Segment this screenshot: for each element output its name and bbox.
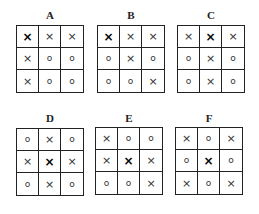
panel-label: C (177, 10, 245, 21)
x-mark-icon: × (220, 128, 242, 150)
x-mark-icon: × (222, 26, 244, 48)
x-mark-icon: × (17, 48, 39, 70)
x-mark-icon: × (200, 70, 222, 92)
panel-label: E (95, 113, 163, 124)
x-mark-icon: × (140, 172, 162, 194)
tic-tac-toe-grid: ×××o×ooo× (97, 25, 165, 93)
tic-tac-toe-grid: ×××o×oo×o (177, 25, 245, 93)
x-mark-icon: × (142, 26, 164, 48)
panel-label: B (97, 10, 165, 21)
o-mark-icon: o (118, 128, 140, 150)
o-mark-icon: o (176, 150, 198, 172)
panel-label: D (16, 113, 84, 124)
o-mark-icon: o (142, 48, 164, 70)
x-mark-icon: × (17, 70, 39, 92)
o-mark-icon: o (178, 70, 200, 92)
o-mark-icon: o (178, 48, 200, 70)
x-mark-icon: × (142, 70, 164, 92)
o-mark-icon: o (220, 150, 242, 172)
o-mark-icon: o (61, 129, 83, 151)
x-mark-icon: × (61, 151, 83, 173)
x-mark-icon: × (176, 128, 198, 150)
x-mark-icon-bold: × (39, 151, 61, 173)
x-mark-icon: × (39, 26, 61, 48)
o-mark-icon: o (17, 129, 39, 151)
o-mark-icon: o (98, 48, 120, 70)
x-mark-icon: × (96, 128, 118, 150)
o-mark-icon: o (61, 173, 83, 195)
x-mark-icon: × (96, 150, 118, 172)
tic-tac-toe-grid: ×oo×××oo× (95, 127, 163, 195)
tic-tac-toe-grid: ×o×o×o×o× (175, 127, 243, 195)
o-mark-icon: o (198, 128, 220, 150)
o-mark-icon: o (222, 70, 244, 92)
x-mark-icon: × (39, 173, 61, 195)
x-mark-icon: × (17, 151, 39, 173)
o-mark-icon: o (98, 70, 120, 92)
panel-label: F (175, 113, 243, 124)
o-mark-icon: o (120, 70, 142, 92)
x-mark-icon-bold: × (17, 26, 39, 48)
panel-label: A (16, 10, 84, 21)
o-mark-icon: o (39, 70, 61, 92)
x-mark-icon-bold: × (118, 150, 140, 172)
tic-tac-toe-grid: ××××oo×oo (16, 25, 84, 93)
x-mark-icon: × (120, 26, 142, 48)
x-mark-icon: × (220, 172, 242, 194)
o-mark-icon: o (198, 172, 220, 194)
x-mark-icon: × (200, 48, 222, 70)
x-mark-icon-bold: × (98, 26, 120, 48)
o-mark-icon: o (140, 128, 162, 150)
o-mark-icon: o (61, 48, 83, 70)
x-mark-icon: × (120, 48, 142, 70)
tic-tac-toe-grid: o×o×××o×o (16, 128, 84, 196)
x-mark-icon-bold: × (198, 150, 220, 172)
x-mark-icon: × (140, 150, 162, 172)
x-mark-icon: × (176, 172, 198, 194)
o-mark-icon: o (118, 172, 140, 194)
x-mark-icon: × (178, 26, 200, 48)
o-mark-icon: o (222, 48, 244, 70)
o-mark-icon: o (96, 172, 118, 194)
o-mark-icon: o (17, 173, 39, 195)
o-mark-icon: o (61, 70, 83, 92)
x-mark-icon-bold: × (200, 26, 222, 48)
o-mark-icon: o (39, 48, 61, 70)
x-mark-icon: × (39, 129, 61, 151)
x-mark-icon: × (61, 26, 83, 48)
